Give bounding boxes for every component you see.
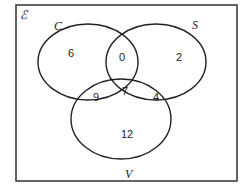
set-v-label: V xyxy=(125,167,134,181)
set-s-label: S xyxy=(192,18,198,32)
region-s-only: 2 xyxy=(176,51,182,63)
region-c-s-v: 7 xyxy=(122,85,128,97)
universal-set-label: ℰ xyxy=(20,8,29,22)
region-c-v-only: 9 xyxy=(93,91,99,103)
set-c-label: C xyxy=(54,19,63,33)
region-v-only: 12 xyxy=(121,128,133,140)
region-c-only: 6 xyxy=(68,47,74,59)
venn-diagram: ℰ C S V 6 0 2 9 7 4 12 xyxy=(0,0,248,189)
region-c-s-only: 0 xyxy=(119,51,125,63)
region-s-v-only: 4 xyxy=(153,91,159,103)
